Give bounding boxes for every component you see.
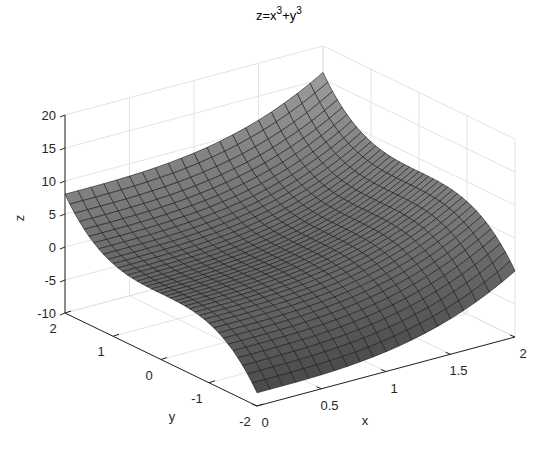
y-tick-label: 2	[49, 321, 56, 336]
z-tick	[60, 280, 65, 282]
y-tick-label: -1	[191, 391, 203, 406]
y-tick-label: 1	[97, 344, 104, 359]
z-tick	[60, 181, 65, 183]
z-tick	[60, 115, 65, 117]
x-tick-label: 2	[519, 346, 526, 361]
y-tick-label: 0	[145, 368, 152, 383]
z-tick-label: 15	[42, 141, 56, 156]
chart-title: z=x3+y3	[256, 5, 302, 23]
z-tick-label: 0	[49, 240, 56, 255]
z-tick-label: -5	[44, 273, 56, 288]
surface-mesh	[65, 72, 515, 392]
x-tick-label: 0	[261, 415, 268, 430]
z-tick	[60, 313, 65, 315]
z-tick-label: 10	[42, 174, 56, 189]
z-tick	[60, 148, 65, 150]
z-tick-label: -10	[37, 306, 56, 321]
z-tick	[60, 247, 65, 249]
z-tick-label: 5	[49, 207, 56, 222]
z-axis-label: z	[12, 215, 27, 222]
y-tick-label: -2	[239, 414, 251, 429]
y-axis-label: y	[169, 409, 176, 424]
x-axis-label: x	[362, 413, 369, 428]
z-tick	[60, 214, 65, 216]
surface-plot-figure: -10-505101520-2-101200.511.52zyx z=x3+y3	[0, 0, 538, 454]
x-tick-label: 1	[390, 381, 397, 396]
x-tick-label: 1.5	[449, 363, 467, 378]
x-tick-label: 0.5	[320, 398, 338, 413]
z-tick-label: 20	[42, 108, 56, 123]
